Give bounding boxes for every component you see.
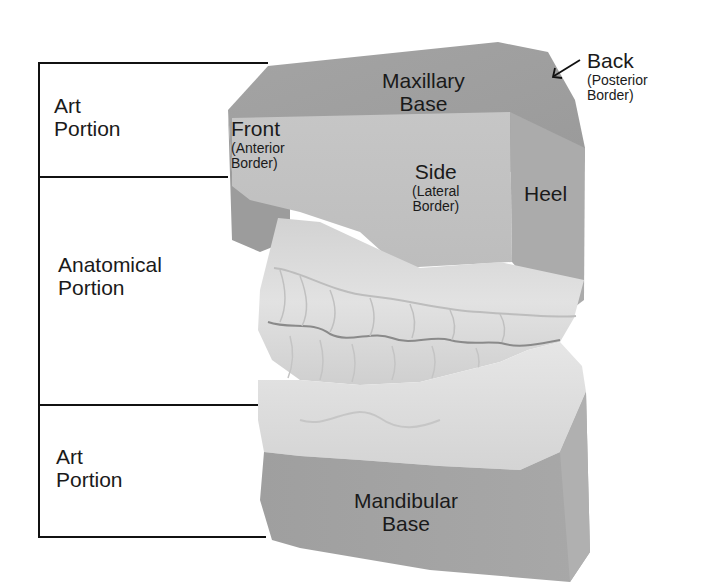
anatomical-portion-label: Anatomical Portion <box>58 254 162 299</box>
heel-label: Heel <box>524 183 567 206</box>
side-label: Side (Lateral Border) <box>412 161 459 214</box>
front-label: Front (Anterior Border) <box>231 118 285 171</box>
bracket-bottom-line <box>38 536 266 538</box>
bracket-divider-lower <box>38 404 258 406</box>
upper-art-portion-label: Art Portion <box>54 95 121 140</box>
maxillary-base-label: Maxillary Base <box>382 70 465 115</box>
bracket-divider-upper <box>38 176 228 178</box>
cast-diagram: Art Portion Anatomical Portion Art Porti… <box>0 0 704 586</box>
back-label: Back (Posterior Border) <box>587 50 648 103</box>
mandibular-base-label: Mandibular Base <box>354 490 458 535</box>
bracket-vertical-line <box>38 62 40 538</box>
bracket-top-line <box>38 62 268 64</box>
arrow-icon <box>548 56 584 82</box>
lower-art-portion-label: Art Portion <box>56 446 123 491</box>
